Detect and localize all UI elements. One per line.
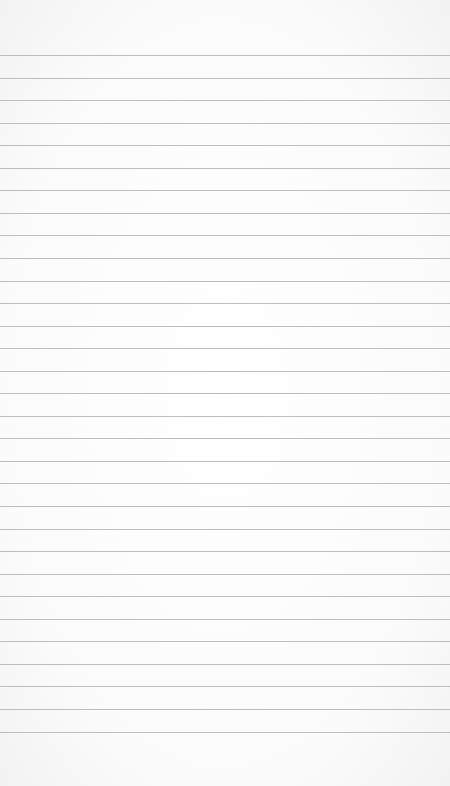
ruled-line xyxy=(0,55,450,56)
ruled-line xyxy=(0,235,450,236)
ruled-line xyxy=(0,326,450,327)
ruled-line xyxy=(0,506,450,507)
ruled-line xyxy=(0,393,450,394)
ruled-line xyxy=(0,732,450,733)
ruled-line xyxy=(0,619,450,620)
ruled-line xyxy=(0,123,450,124)
ruled-line xyxy=(0,664,450,665)
ruled-line xyxy=(0,686,450,687)
ruled-line xyxy=(0,100,450,101)
ruled-line xyxy=(0,596,450,597)
ruled-line xyxy=(0,483,450,484)
ruled-line xyxy=(0,416,450,417)
ruled-line xyxy=(0,348,450,349)
ruled-line xyxy=(0,281,450,282)
ruled-line xyxy=(0,258,450,259)
ruled-line xyxy=(0,190,450,191)
ruled-line xyxy=(0,78,450,79)
ruled-line xyxy=(0,574,450,575)
ruled-line xyxy=(0,145,450,146)
ruled-line xyxy=(0,371,450,372)
lined-paper-sheet xyxy=(0,0,450,786)
ruled-line xyxy=(0,709,450,710)
ruled-line xyxy=(0,529,450,530)
ruled-line xyxy=(0,438,450,439)
ruled-line xyxy=(0,168,450,169)
ruled-line xyxy=(0,303,450,304)
ruled-line xyxy=(0,461,450,462)
ruled-line xyxy=(0,213,450,214)
ruled-line xyxy=(0,551,450,552)
ruled-line xyxy=(0,641,450,642)
